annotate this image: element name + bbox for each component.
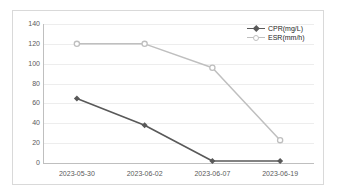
legend-item-cpr[interactable]: CPR(mg/L) [247,24,303,33]
legend-marker-cpr [253,25,259,31]
chart-figure: 020406080100120140 2023-05-302023-06-022… [0,0,338,195]
legend-label-cpr: CPR(mg/L) [268,24,303,33]
legend-swatch-cpr [247,24,265,33]
data-point-cpr [209,158,215,164]
data-point-cpr [277,158,283,164]
data-point-esr [210,65,215,70]
legend-marker-esr [253,35,259,41]
data-point-cpr [74,95,80,101]
legend-label-esr: ESR(mm/h) [268,33,305,42]
legend-item-esr[interactable]: ESR(mm/h) [247,33,305,42]
chart-legend: CPR(mg/L) ESR(mm/h) [247,24,317,44]
data-point-esr [278,138,283,143]
legend-swatch-esr [247,33,265,42]
series-line-esr [77,44,280,140]
data-point-cpr [142,122,148,128]
data-point-esr [74,41,79,46]
data-point-esr [142,41,147,46]
